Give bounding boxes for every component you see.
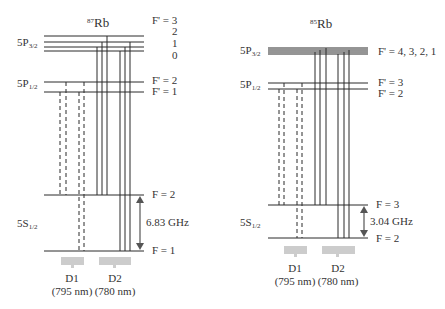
rb87-symbol: Rb	[94, 15, 109, 30]
rb85-p12-f2-label: F' = 2	[378, 87, 403, 99]
state-sub: 1/2	[29, 83, 38, 91]
rb87-p32-f2-label: 2	[172, 25, 178, 37]
rb85-p32-label-f: F' = 4, 3, 2, 1	[378, 45, 436, 57]
rb87-splitting-label: 6.83 GHz	[146, 216, 189, 228]
state-sub: 3/2	[29, 42, 38, 50]
state-sub: 3/2	[252, 50, 261, 58]
rb85-d1-band	[284, 246, 307, 254]
rb85-bands	[284, 246, 355, 257]
rb85-symbol: Rb	[317, 16, 332, 31]
rb87-diagram	[44, 36, 144, 268]
rb85-mass: 85	[310, 18, 317, 26]
state-sub: 1/2	[29, 223, 38, 231]
rb85-p32-label: 5P3/2	[240, 44, 261, 60]
rb85-s-f2-label: F = 2	[376, 232, 399, 244]
rb85-p12-label: 5P1/2	[240, 78, 261, 94]
rb85-splitting-label: 3.04 GHz	[370, 215, 413, 227]
rb85-splitting-arrow	[360, 206, 368, 237]
rb85-s-f3-label: F = 3	[376, 198, 399, 210]
rb87-s-f1-label: F = 1	[152, 244, 175, 256]
rb87-title: 87Rb	[87, 15, 109, 29]
state-sub: 1/2	[252, 84, 261, 92]
state-main: 5P	[17, 77, 29, 89]
state-sub: 1/2	[252, 222, 261, 230]
rb85-title: 85Rb	[310, 16, 332, 30]
rb87-bands	[61, 257, 131, 268]
rb87-mass: 87	[87, 17, 94, 25]
rb87-splitting-arrow	[136, 196, 144, 250]
state-main: 5S	[17, 217, 29, 229]
state-main: 5P	[240, 44, 252, 56]
rb87-d1-band	[61, 257, 84, 265]
state-main: 5S	[240, 216, 252, 228]
rb87-d2-band	[99, 257, 131, 265]
rb87-d2-wavelength: (780 nm)	[90, 285, 140, 297]
rb87-p12-label: 5P1/2	[17, 77, 38, 93]
rb85-diagram	[268, 48, 368, 257]
rb85-s12-label: 5S1/2	[240, 216, 261, 232]
rb85-d2-label: D2	[318, 262, 358, 274]
rb87-d2-label: D2	[95, 272, 135, 284]
rb87-s-f2-label: F = 2	[152, 188, 175, 200]
state-main: 5P	[240, 78, 252, 90]
state-main: 5P	[17, 36, 29, 48]
rb87-s12-label: 5S1/2	[17, 217, 38, 233]
rb85-d2-band	[322, 246, 355, 254]
rb87-p32-label: 5P3/2	[17, 36, 38, 52]
rb87-d1-label: D1	[52, 272, 92, 284]
rb87-p12-f1-label: F' = 1	[152, 85, 177, 97]
rb87-p32-f0-label: 0	[172, 49, 178, 61]
rb87-p32-f1-label: 1	[172, 37, 178, 49]
rb85-d2-wavelength: (780 nm)	[313, 275, 363, 287]
rb85-d1-label: D1	[275, 262, 315, 274]
